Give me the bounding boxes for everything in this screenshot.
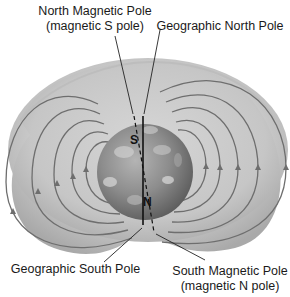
magnetic-field-diagram: S N North Magnetic Pole (magnetic S pole… (0, 0, 290, 297)
magnetic-n-marker: N (143, 195, 152, 209)
label-line2: (magnetic N pole) (170, 279, 290, 294)
label-north-magnetic-pole: North Magnetic Pole (magnetic S pole) (30, 4, 160, 34)
label-line1: North Magnetic Pole (30, 4, 160, 19)
label-south-magnetic-pole: South Magnetic Pole (magnetic N pole) (170, 264, 290, 294)
magnetic-s-marker: S (130, 133, 138, 147)
field-illustration (0, 0, 290, 297)
label-line1: South Magnetic Pole (170, 264, 290, 279)
label-geographic-north-pole: Geographic North Pole (150, 19, 290, 34)
label-geographic-south-pole: Geographic South Pole (8, 262, 143, 277)
label-line2: (magnetic S pole) (30, 19, 160, 34)
